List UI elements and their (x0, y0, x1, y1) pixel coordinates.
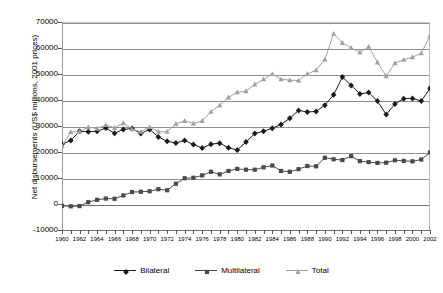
data-point-marker (182, 118, 187, 123)
x-axis-tick-mark (202, 230, 203, 234)
legend-label: Total (312, 266, 329, 275)
data-point-marker (182, 138, 188, 144)
data-point-marker (174, 182, 178, 186)
legend-label: Multilateral (221, 266, 260, 275)
x-axis-tick-mark (299, 230, 300, 234)
data-point-marker (410, 95, 416, 101)
data-point-marker (288, 170, 292, 174)
data-point-marker (279, 169, 283, 173)
data-point-marker (85, 129, 91, 135)
x-axis-tick-mark (88, 230, 89, 234)
x-axis-tick-mark (325, 230, 326, 234)
data-point-marker (384, 161, 388, 165)
series-container (62, 22, 430, 230)
data-point-marker (313, 108, 319, 114)
data-point-marker (208, 109, 213, 114)
data-point-marker (428, 150, 430, 154)
x-axis-tick-labels: 1960196219641966196819701972197419761978… (62, 236, 431, 246)
data-point-marker (349, 45, 354, 50)
data-point-marker (147, 124, 152, 129)
x-axis-tick-mark (264, 230, 265, 234)
data-point-marker (139, 190, 143, 194)
data-point-marker (270, 71, 275, 76)
data-point-marker (243, 88, 248, 93)
x-axis-tick-mark (71, 230, 72, 234)
x-axis-tick-mark (211, 230, 212, 234)
data-point-marker (130, 190, 134, 194)
line-chart: Net disbursements (US$ millions, 2001 pr… (0, 0, 443, 293)
data-point-marker (314, 164, 318, 168)
data-point-marker (375, 161, 379, 165)
data-point-marker (148, 189, 152, 193)
data-point-marker (103, 122, 108, 127)
legend-item-total[interactable]: Total (286, 266, 329, 275)
data-point-marker (121, 193, 125, 197)
x-axis-tick-mark (369, 230, 370, 234)
x-axis-tick-mark (404, 230, 405, 234)
data-point-marker (295, 269, 300, 274)
x-axis-tick-mark (307, 230, 308, 234)
data-point-marker (164, 138, 170, 144)
x-axis-tick-mark (123, 230, 124, 234)
data-point-marker (217, 140, 223, 146)
x-axis-tick-mark (115, 230, 116, 234)
data-point-marker (253, 168, 257, 172)
data-point-marker (357, 50, 362, 55)
data-point-marker (86, 200, 90, 204)
x-axis-tick-mark (342, 230, 343, 234)
data-point-marker (322, 57, 327, 62)
triangle-icon (286, 266, 308, 275)
y-axis-tick-label: -10000 (18, 226, 58, 234)
data-point-marker (191, 141, 197, 147)
x-axis-tick-mark (237, 230, 238, 234)
series-total (62, 31, 430, 148)
data-point-marker (305, 109, 311, 115)
data-point-marker (305, 164, 309, 168)
data-point-marker (419, 50, 424, 55)
x-axis-tick-mark (185, 230, 186, 234)
y-axis-tick-label: 50000 (18, 70, 58, 78)
data-point-marker (156, 187, 160, 191)
data-point-marker (191, 176, 195, 180)
data-point-marker (226, 145, 232, 151)
data-point-marker (95, 198, 99, 202)
square-icon (195, 266, 217, 275)
legend-label: Bilateral (140, 266, 169, 275)
data-point-marker (104, 196, 108, 200)
legend-item-multilateral[interactable]: Multilateral (195, 266, 260, 275)
data-point-marker (209, 170, 213, 174)
y-axis-tick-label: 10000 (18, 174, 58, 182)
x-axis-tick-label: 2002 (419, 236, 441, 243)
series-line (62, 77, 430, 150)
x-axis-tick-mark (228, 230, 229, 234)
x-axis-tick-mark (334, 230, 335, 234)
x-axis-tick-mark (272, 230, 273, 234)
data-point-marker (252, 82, 257, 87)
data-point-marker (278, 76, 283, 81)
data-point-marker (332, 157, 336, 161)
data-point-marker (419, 157, 423, 161)
y-axis-tick-label: 0 (18, 200, 58, 208)
data-point-marker (200, 173, 204, 177)
x-axis-tick-mark (106, 230, 107, 234)
x-axis-tick-mark (141, 230, 142, 234)
data-point-marker (226, 95, 231, 100)
data-point-marker (112, 130, 118, 136)
legend-item-bilateral[interactable]: Bilateral (114, 266, 169, 275)
data-point-marker (77, 204, 81, 208)
y-axis-tick-label: 70000 (18, 18, 58, 26)
x-axis-tick-mark (255, 230, 256, 234)
data-point-marker (269, 125, 275, 131)
x-axis-tick-mark (395, 230, 396, 234)
data-point-marker (367, 160, 371, 164)
data-point-marker (261, 128, 267, 134)
x-axis-tick-mark (386, 230, 387, 234)
data-point-marker (261, 165, 265, 169)
data-point-marker (244, 168, 248, 172)
series-multilateral (62, 150, 430, 208)
data-point-marker (410, 159, 414, 163)
x-axis-tick-mark (167, 230, 168, 234)
data-point-marker (165, 188, 169, 192)
data-point-marker (323, 156, 327, 160)
x-axis-tick-mark (360, 230, 361, 234)
